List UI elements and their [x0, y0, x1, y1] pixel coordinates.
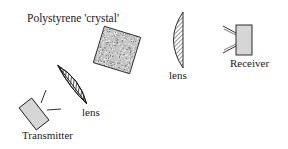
receiver-icon	[223, 25, 252, 55]
crystal-label: Polystyrene 'crystal'	[27, 13, 119, 24]
transmitter-horn-icon	[41, 90, 61, 110]
transmitter-label: Transmitter	[22, 130, 73, 141]
lens-icon	[56, 62, 90, 105]
crystal-block	[93, 26, 140, 73]
lens-label: lens	[169, 70, 187, 81]
lens-label: lens	[82, 107, 100, 118]
receiver-label: Receiver	[230, 58, 269, 69]
lens-icon	[174, 12, 184, 68]
transmitter-icon	[19, 98, 49, 130]
